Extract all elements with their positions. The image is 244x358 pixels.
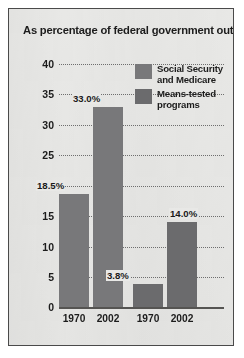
data-label-2002-means-tested: 14.0%	[169, 208, 198, 219]
legend-label-means-tested: Means-tested programs	[157, 88, 216, 110]
x-axis-label-1: 1970	[57, 313, 91, 324]
y-axis-tick-40: 40	[21, 58, 54, 70]
gridline-30	[59, 125, 224, 126]
legend-label-line-2: and Medicare	[157, 74, 223, 85]
bar-1970-means-tested	[133, 284, 163, 307]
bar-1970-social-security	[59, 194, 89, 307]
y-axis-tick-35: 35	[21, 88, 54, 100]
gridline-25	[59, 155, 224, 156]
legend-item-social-security: Social Security and Medicare	[135, 63, 227, 85]
chart-legend: Social Security and Medicare Means-teste…	[135, 63, 227, 113]
y-axis-tick-30: 30	[21, 119, 54, 131]
legend-swatch-means-tested	[135, 89, 152, 104]
x-axis-label-4: 2002	[165, 313, 199, 324]
legend-item-means-tested: Means-tested programs	[135, 88, 227, 110]
legend-label-social-security: Social Security and Medicare	[157, 63, 223, 85]
gridline-20	[59, 186, 224, 187]
plot-area: 40 35 30 25 20 15 10 5 0 18.5% 33.0% 3.8…	[9, 9, 233, 345]
x-axis-label-3: 1970	[131, 313, 165, 324]
x-axis-label-2: 2002	[91, 313, 125, 324]
data-label-1970-social-security: 18.5%	[36, 180, 65, 191]
legend-label-line-1: Means-tested	[157, 88, 216, 99]
data-label-2002-social-security: 33.0%	[72, 93, 101, 104]
legend-label-line-1: Social Security	[157, 63, 223, 74]
data-label-1970-means-tested: 3.8%	[106, 270, 130, 281]
y-axis-tick-25: 25	[21, 149, 54, 161]
y-axis-tick-0: 0	[21, 301, 54, 313]
chart-figure: As percentage of federal government outl…	[8, 8, 234, 346]
y-axis-tick-10: 10	[21, 241, 54, 253]
legend-label-line-2: programs	[157, 99, 216, 110]
y-axis-tick-5: 5	[21, 271, 54, 283]
x-axis-line	[59, 307, 224, 309]
legend-swatch-social-security	[135, 64, 152, 79]
bar-2002-means-tested	[167, 222, 197, 307]
y-axis-tick-15: 15	[21, 210, 54, 222]
